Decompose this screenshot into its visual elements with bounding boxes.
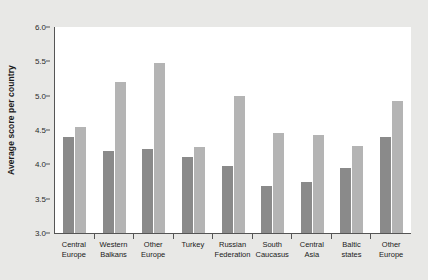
bar <box>63 137 74 233</box>
bar <box>103 151 114 233</box>
x-axis-tick-label: CentralAsia <box>292 240 332 260</box>
x-axis-tick-labels: CentralEuropeWesternBalkansOtherEuropeTu… <box>54 240 411 260</box>
x-axis-separator <box>252 233 253 239</box>
bar <box>194 147 205 233</box>
x-axis-separator <box>370 233 371 239</box>
bar-group <box>372 27 412 233</box>
bar-group <box>174 27 214 233</box>
x-axis-separator <box>133 233 134 239</box>
x-axis-tick-label-line1: Central <box>300 240 324 249</box>
y-axis-title: Average score per country <box>2 0 20 240</box>
x-axis-tick-label-line2: Federation <box>213 250 253 260</box>
y-axis-tick-label: 5.5 <box>35 57 46 66</box>
bar-group <box>292 27 332 233</box>
x-axis-separator <box>331 233 332 239</box>
bar <box>142 149 153 233</box>
bar <box>182 157 193 233</box>
y-axis-tick-mark <box>46 61 50 62</box>
x-axis-separator <box>212 233 213 239</box>
x-axis-tick-label-line1: Turkey <box>182 240 205 249</box>
bar <box>75 127 86 233</box>
y-axis-title-text: Average score per country <box>6 65 16 175</box>
bar <box>261 186 272 233</box>
bar <box>352 146 363 233</box>
x-axis-tick-label: Turkey <box>173 240 213 260</box>
x-axis-tick-label: CentralEurope <box>54 240 94 260</box>
bar-groups <box>55 27 411 233</box>
y-axis-tick-label: 6.0 <box>35 23 46 32</box>
x-axis-tick-label-line1: South <box>262 240 282 249</box>
bar <box>392 101 403 233</box>
y-axis-tick-label: 4.0 <box>35 160 46 169</box>
y-axis-tick-mark <box>46 233 50 234</box>
x-axis-tick-label-line1: Central <box>62 240 86 249</box>
x-axis-separator <box>173 233 174 239</box>
x-axis-tick-label: RussianFederation <box>213 240 253 260</box>
x-axis-tick-label: SouthCaucasus <box>252 240 292 260</box>
bar-group <box>55 27 95 233</box>
bar <box>234 96 245 233</box>
x-axis-tick-label: OtherEurope <box>133 240 173 260</box>
x-axis-tick-label: Balticstates <box>332 240 372 260</box>
x-axis-tick-label-line1: Baltic <box>342 240 360 249</box>
bar-group <box>95 27 135 233</box>
y-axis-tick-mark <box>46 164 50 165</box>
x-axis-tick-label-line2: Europe <box>371 250 411 260</box>
y-axis-tick-mark <box>46 95 50 96</box>
x-axis-separator <box>94 233 95 239</box>
y-axis-tick-mark <box>46 27 50 28</box>
bar-group <box>253 27 293 233</box>
bar <box>154 63 165 233</box>
y-axis-tick-label: 3.0 <box>35 229 46 238</box>
x-axis-tick-label-line2: Europe <box>133 250 173 260</box>
bar-group <box>213 27 253 233</box>
plot-area <box>54 27 411 234</box>
x-axis-tick-label-line2: Caucasus <box>252 250 292 260</box>
x-axis-tick-label: WesternBalkans <box>94 240 134 260</box>
x-axis-tick-label-line2: Europe <box>54 250 94 260</box>
y-axis-tick-mark <box>46 198 50 199</box>
bar <box>380 137 391 233</box>
bar-chart-figure: Average score per country 3.03.54.04.55.… <box>0 0 428 280</box>
x-axis-tick-label-line1: Other <box>382 240 401 249</box>
y-axis-tick-label: 4.5 <box>35 126 46 135</box>
x-axis-tick-label: OtherEurope <box>371 240 411 260</box>
x-axis-separator <box>291 233 292 239</box>
bar <box>115 82 126 233</box>
y-axis-tick-mark <box>46 130 50 131</box>
bar <box>340 168 351 233</box>
bar-group <box>134 27 174 233</box>
bar-group <box>332 27 372 233</box>
x-axis-tick-label-line1: Western <box>100 240 128 249</box>
y-axis-tick-labels: 3.03.54.04.55.05.56.0 <box>20 0 50 280</box>
bar <box>313 135 324 233</box>
x-axis-tick-label-line1: Other <box>144 240 163 249</box>
y-axis-tick-label: 3.5 <box>35 194 46 203</box>
x-axis-tick-label-line2: states <box>332 250 372 260</box>
bar <box>301 182 312 234</box>
x-axis-tick-label-line1: Russian <box>219 240 246 249</box>
y-axis-tick-label: 5.0 <box>35 91 46 100</box>
bar <box>273 133 284 233</box>
x-axis-tick-label-line2: Asia <box>292 250 332 260</box>
x-axis: CentralEuropeWesternBalkansOtherEuropeTu… <box>54 233 411 280</box>
x-axis-tick-label-line2: Balkans <box>94 250 134 260</box>
bar <box>222 166 233 233</box>
